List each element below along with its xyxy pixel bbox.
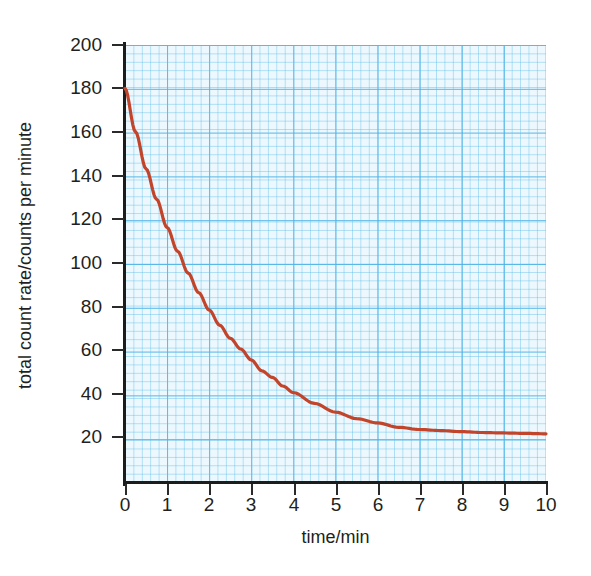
x-tick-label-9: 9 [487, 495, 521, 514]
y-tick-180 [112, 87, 124, 89]
y-tick-200 [112, 44, 124, 46]
x-tick-label-1: 1 [150, 495, 184, 514]
x-tick-label-6: 6 [361, 495, 395, 514]
y-tick-140 [112, 175, 124, 177]
y-tick-label-200: 200 [56, 35, 102, 54]
y-tick-label-60: 60 [56, 340, 102, 359]
y-tick-160 [112, 131, 124, 133]
y-tick-label-180: 180 [56, 78, 102, 97]
page-background: 200 180 160 140 120 100 80 60 40 20 0 1 … [0, 0, 591, 576]
y-axis-title: total count rate/counts per minute [15, 86, 36, 426]
x-tick-label-5: 5 [319, 495, 353, 514]
y-tick-label-120: 120 [56, 209, 102, 228]
x-axis-title: time/min [125, 527, 546, 548]
x-tick-label-4: 4 [277, 495, 311, 514]
y-tick-label-100: 100 [56, 253, 102, 272]
plot-area [125, 45, 546, 483]
y-tick-label-140: 140 [56, 166, 102, 185]
x-tick-label-2: 2 [192, 495, 226, 514]
x-tick-label-3: 3 [234, 495, 268, 514]
y-tick-120 [112, 218, 124, 220]
x-tick-label-7: 7 [403, 495, 437, 514]
y-tick-label-20: 20 [56, 427, 102, 446]
y-tick-60 [112, 349, 124, 351]
y-tick-label-80: 80 [56, 297, 102, 316]
x-tick-label-0: 0 [108, 495, 142, 514]
y-tick-40 [112, 393, 124, 395]
y-tick-20 [112, 436, 124, 438]
decay-curve-chart: 200 180 160 140 120 100 80 60 40 20 0 1 … [0, 0, 591, 576]
y-tick-label-160: 160 [56, 122, 102, 141]
y-tick-80 [112, 306, 124, 308]
x-tick-label-10: 10 [529, 495, 563, 514]
y-axis-line [123, 42, 126, 486]
x-tick-label-8: 8 [445, 495, 479, 514]
y-tick-label-40: 40 [56, 384, 102, 403]
y-tick-100 [112, 262, 124, 264]
